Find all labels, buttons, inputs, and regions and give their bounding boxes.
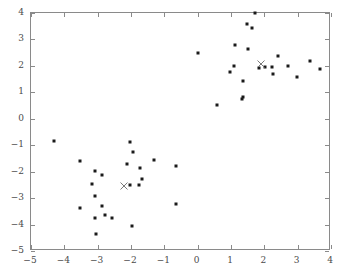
y-axis-tick [325,172,329,173]
x-axis-tick [131,245,132,249]
data-point [129,184,132,187]
y-axis-tick [31,225,35,226]
y-axis-tick-label: 2 [2,60,24,69]
data-point [233,43,236,46]
data-point [79,207,82,210]
data-point [131,224,134,227]
data-point [245,22,248,25]
x-axis-tick [331,245,332,249]
y-axis-tick-label: 1 [2,87,24,96]
y-axis-tick-label: 3 [2,34,24,43]
x-axis-tick [231,245,232,249]
y-axis-tick [325,13,329,14]
x-axis-tick-label: 3 [294,256,300,265]
x-axis-tick [64,13,65,17]
data-point [93,217,96,220]
data-point [110,216,113,219]
data-point [277,54,280,57]
data-point [233,64,236,67]
data-point [175,165,178,168]
x-axis-tick-label: 0 [194,256,200,265]
x-axis-tick [231,13,232,17]
y-axis-tick [31,39,35,40]
data-point [254,12,257,15]
y-axis-tick [31,145,35,146]
data-point [286,64,289,67]
data-point [100,204,103,207]
x-axis-tick [331,13,332,17]
x-axis-tick [98,13,99,17]
y-axis-tick-label: −1 [2,140,24,149]
data-point [272,72,275,75]
y-axis-tick [31,198,35,199]
x-axis-tick [64,245,65,249]
scatter-plot-figure: −5−4−3−2−101234−5−4−3−2−101234 [0,0,342,279]
data-point [79,159,82,162]
x-axis-tick [298,245,299,249]
data-point [141,178,144,181]
y-axis-tick-label: 4 [2,8,24,17]
y-axis-tick [325,198,329,199]
y-axis-tick-label: 0 [2,113,24,122]
x-axis-tick [198,13,199,17]
data-point [309,60,312,63]
x-axis-tick [264,245,265,249]
data-point [126,163,129,166]
y-axis-tick [325,225,329,226]
x-axis-tick [298,13,299,17]
data-point [101,174,104,177]
data-point [95,233,98,236]
x-axis-tick-label: 4 [327,256,333,265]
data-point [128,140,131,143]
centroid-cluster-2-icon [257,59,266,68]
data-point [137,183,140,186]
x-axis-tick [31,245,32,249]
y-axis-tick [325,119,329,120]
data-point [296,76,299,79]
data-point [94,169,97,172]
x-axis-tick-label: −4 [57,256,70,265]
data-point [53,139,56,142]
data-point [251,27,254,30]
x-axis-tick [164,245,165,249]
y-axis-tick [31,66,35,67]
y-axis-tick [31,251,35,252]
data-point [216,103,219,106]
y-axis-tick [325,145,329,146]
x-axis-tick-label: 1 [227,256,233,265]
data-point [271,66,274,69]
data-point [246,47,249,50]
data-point [132,150,135,153]
data-point [241,95,244,98]
plot-area [30,12,330,250]
x-axis-tick-label: −1 [157,256,170,265]
y-axis-tick [31,172,35,173]
y-axis-tick-label: −3 [2,193,24,202]
data-point [104,213,107,216]
data-point [174,202,177,205]
y-axis-tick [31,119,35,120]
data-point [197,51,200,54]
data-point [90,183,93,186]
data-point [228,70,231,73]
x-axis-tick-label: −5 [23,256,36,265]
x-axis-tick [164,13,165,17]
x-axis-tick [131,13,132,17]
data-point [138,166,141,169]
y-axis-tick-label: −2 [2,166,24,175]
x-axis-tick [264,13,265,17]
data-point [319,68,322,71]
y-axis-tick-label: −5 [2,246,24,255]
x-axis-tick [98,245,99,249]
data-point [242,79,245,82]
y-axis-tick [325,39,329,40]
x-axis-tick [198,245,199,249]
centroid-cluster-1-icon [120,182,129,191]
x-axis-tick-label: 2 [260,256,266,265]
y-axis-tick-label: −4 [2,219,24,228]
data-point [93,194,96,197]
y-axis-tick [325,66,329,67]
y-axis-tick [325,251,329,252]
x-axis-tick-label: −2 [123,256,136,265]
y-axis-tick [325,92,329,93]
